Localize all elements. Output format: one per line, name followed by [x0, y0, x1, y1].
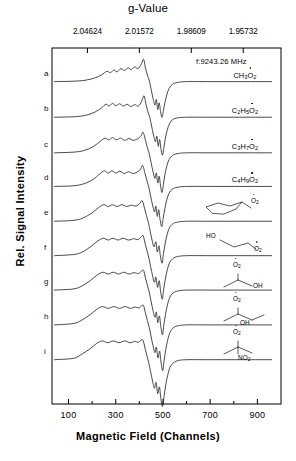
epr-spectra-figure: g-Value 2.046242.015721.986091.95732 f:9… — [0, 0, 296, 461]
x-axis-label-3: 700 — [202, 410, 218, 420]
x-axis-label-4: 900 — [249, 410, 265, 420]
trace-letter-f: f — [44, 243, 46, 252]
label-NO2-i: NO2 — [238, 354, 251, 362]
trace-letter-g: g — [44, 277, 48, 286]
label-OH-h: OH — [240, 319, 250, 326]
x-axis-tick-labels: 100300500700900 — [0, 410, 296, 424]
species-structure-g: O2OH — [196, 260, 280, 294]
trace-letter-d: d — [44, 173, 48, 182]
x-axis-label-0: 100 — [61, 410, 77, 420]
trace-letter-a: a — [44, 69, 48, 78]
label-O2-h: O2 — [233, 295, 241, 303]
label-HO-f: HO — [206, 232, 216, 239]
species-formula-b: C2H5O2 — [232, 106, 258, 115]
species-structure-h: O2OH — [196, 295, 280, 329]
label-O2-g: O2 — [233, 261, 241, 269]
x-axis-label-1: 300 — [108, 410, 124, 420]
species-structure-f: HOO2 — [196, 226, 280, 260]
label-O2-i: O2 — [233, 328, 241, 336]
species-formula-c: C3H7O2 — [232, 142, 258, 151]
label-O2-f: O2 — [254, 245, 262, 253]
species-formula-d: C4H9O2 — [232, 175, 258, 184]
species-structure-i: O2NO2 — [196, 330, 280, 364]
trace-letter-h: h — [44, 312, 48, 321]
trace-letter-c: c — [44, 140, 48, 149]
species-structure-e: O2 — [196, 191, 280, 225]
trace-letter-i: i — [44, 347, 46, 356]
label-OH-g: OH — [253, 282, 263, 289]
x-axis-label-2: 500 — [155, 410, 171, 420]
x-axis-title: Magnetic Field (Channels) — [0, 430, 296, 442]
trace-letter-b: b — [44, 104, 48, 113]
trace-letter-e: e — [44, 208, 48, 217]
species-formula-a: CH3O2 — [233, 71, 256, 80]
label-O2-e: O2 — [251, 197, 259, 205]
y-axis-title: Rel. Signal Intensity — [14, 111, 26, 311]
